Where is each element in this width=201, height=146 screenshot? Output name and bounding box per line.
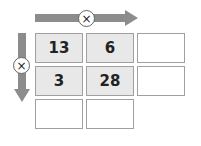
multiply-icon: × <box>13 57 30 74</box>
arrow-down-icon <box>14 89 30 102</box>
grid-cell-r2c1: 3 <box>35 66 83 96</box>
arrow-right-icon <box>125 10 138 26</box>
grid-cell-r3c1 <box>35 99 83 129</box>
grid-cell-r2c3 <box>137 66 185 96</box>
grid-cell-r1c3 <box>137 33 185 63</box>
grid-cell-r1c2: 6 <box>86 33 134 63</box>
grid-cell-r2c2: 28 <box>86 66 134 96</box>
multiply-icon: × <box>78 10 95 27</box>
grid-cell-r3c2 <box>86 99 134 129</box>
grid-cell-r1c1: 13 <box>35 33 83 63</box>
multiplication-grid: 13 6 3 28 <box>35 33 190 135</box>
